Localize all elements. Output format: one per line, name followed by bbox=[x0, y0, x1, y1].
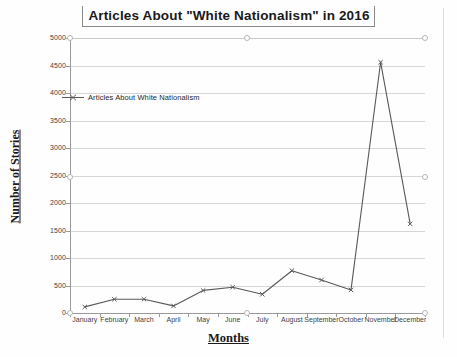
y-axis-title-container: Number of Stories bbox=[4, 105, 26, 255]
selection-handle-top-right[interactable] bbox=[422, 35, 428, 41]
selection-handle-top-center[interactable] bbox=[244, 35, 250, 41]
y-tick-label: 1000 bbox=[32, 254, 66, 261]
selection-handle-top-left[interactable] bbox=[67, 35, 73, 41]
y-tick-label: 4500 bbox=[32, 62, 66, 69]
selection-handle-bottom-right[interactable] bbox=[422, 310, 428, 316]
line-with-marker-icon bbox=[62, 93, 84, 102]
y-tick-label: 500 bbox=[32, 282, 66, 289]
y-axis-title[interactable]: Number of Stories bbox=[8, 102, 23, 252]
y-tick-label: 3500 bbox=[32, 117, 66, 124]
x-axis-title[interactable]: Months bbox=[0, 331, 457, 346]
y-tick-label: 2500 bbox=[32, 172, 66, 179]
y-tick-label: 4000 bbox=[32, 89, 66, 96]
y-tick-label: 3000 bbox=[32, 144, 66, 151]
x-tick-label: December bbox=[380, 316, 440, 323]
selection-handle-bottom-left[interactable] bbox=[67, 310, 73, 316]
chart-canvas[interactable]: Articles About "White Nationalism" in 20… bbox=[0, 0, 457, 357]
chart-legend[interactable]: Articles About White Nationalism bbox=[62, 93, 200, 102]
selection-handle-middle-right[interactable] bbox=[422, 174, 428, 180]
chart-title-container: Articles About "White Nationalism" in 20… bbox=[0, 6, 457, 27]
y-tick-label: 5000 bbox=[32, 34, 66, 41]
y-tick-label: 1500 bbox=[32, 227, 66, 234]
y-tick-label: 2000 bbox=[32, 199, 66, 206]
y-tick-label: 0 bbox=[32, 309, 66, 316]
chart-right-frame bbox=[443, 8, 444, 338]
data-series-line[interactable] bbox=[70, 38, 426, 314]
legend-entry-label: Articles About White Nationalism bbox=[88, 93, 200, 102]
chart-title[interactable]: Articles About "White Nationalism" in 20… bbox=[82, 6, 374, 27]
selection-handle-bottom-center[interactable] bbox=[244, 310, 250, 316]
selection-handle-middle-left[interactable] bbox=[67, 174, 73, 180]
